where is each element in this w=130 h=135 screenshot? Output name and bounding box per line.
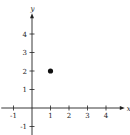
y-axis-label: y — [30, 5, 36, 13]
x-tick-label: -1 — [10, 112, 17, 120]
x-tick-label: 2 — [67, 112, 71, 120]
x-tick-label: 1 — [48, 112, 52, 120]
x-axis-label: x — [127, 105, 130, 113]
y-axis-arrow-icon — [30, 13, 34, 18]
x-tick-label: 4 — [104, 112, 109, 120]
y-tick-label: 3 — [23, 49, 27, 57]
x-axis-arrow-icon — [120, 106, 125, 110]
y-tick-label: 1 — [23, 86, 27, 94]
ticks — [14, 34, 107, 127]
data-point — [48, 68, 53, 73]
tick-labels: -11234-11234 — [10, 31, 109, 132]
y-tick-label: 4 — [23, 31, 28, 39]
y-tick-label: 2 — [23, 68, 27, 76]
coordinate-plane: -11234-11234 x y — [0, 0, 130, 135]
y-tick-label: -1 — [20, 123, 27, 131]
x-tick-label: 3 — [85, 112, 89, 120]
data-points — [48, 68, 53, 73]
